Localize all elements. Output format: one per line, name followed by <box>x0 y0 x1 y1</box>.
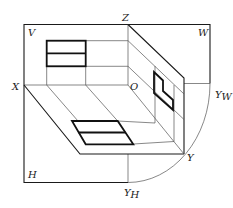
label-h: H <box>27 169 37 180</box>
projection-diagram: Z V W X O YW Y H YH <box>0 0 233 208</box>
label-z: Z <box>121 12 130 23</box>
outer-frame <box>24 25 210 183</box>
label-yw: YW <box>215 89 233 102</box>
axes <box>24 25 210 183</box>
w-projection-shape <box>154 72 173 110</box>
label-x: X <box>11 81 20 92</box>
label-yh: YH <box>124 187 140 200</box>
label-v: V <box>28 27 37 38</box>
label-y: Y <box>187 152 195 163</box>
label-o: O <box>130 81 138 92</box>
label-w: W <box>198 27 209 38</box>
labels: Z V W X O YW Y H YH <box>11 12 233 200</box>
v-projection-shape <box>47 41 86 67</box>
h-projection-shape <box>72 121 133 144</box>
v-plane-lines <box>47 41 128 85</box>
